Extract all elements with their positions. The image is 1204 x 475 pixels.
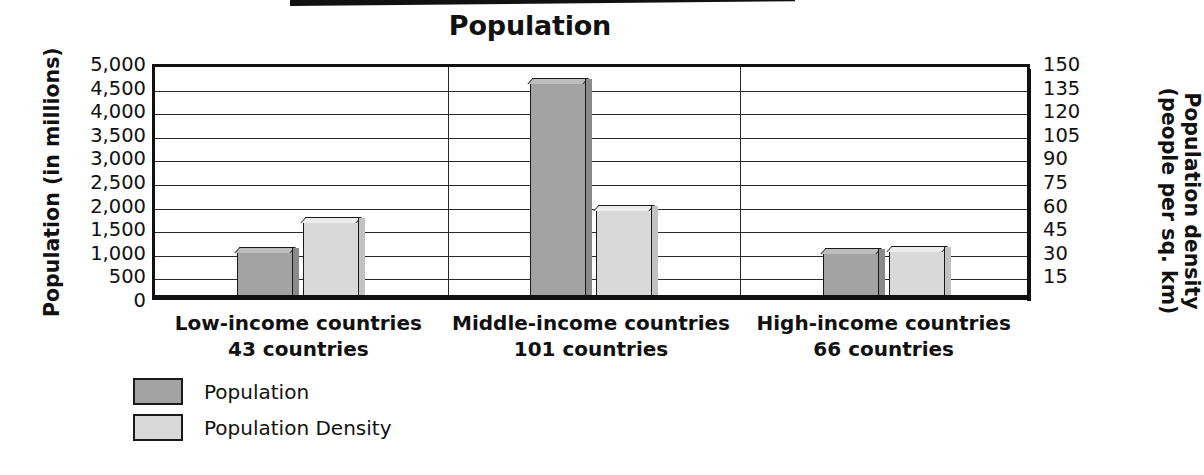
y-axis-right-tick-label: 105 bbox=[1043, 126, 1080, 146]
bar-top-face bbox=[527, 78, 588, 84]
bar-top-face bbox=[301, 217, 362, 223]
category-divider bbox=[448, 67, 449, 297]
category-label: Low-income countries43 countries bbox=[152, 310, 445, 362]
category-label: Middle-income countries101 countries bbox=[445, 310, 738, 362]
category-country-count: 66 countries bbox=[737, 336, 1030, 362]
y-axis-left-tick-label: 2,500 bbox=[90, 173, 146, 193]
y-axis-left-tick-label: 500 bbox=[109, 267, 146, 287]
chart-title: Population bbox=[0, 10, 1060, 41]
y-axis-left-title: Population (in millions) bbox=[40, 57, 64, 317]
x-axis-baseline bbox=[152, 295, 1030, 300]
y-axis-left-tick-label: 5,000 bbox=[90, 55, 146, 75]
bar-side-face bbox=[944, 247, 951, 296]
legend-swatch bbox=[133, 414, 183, 441]
category-name: High-income countries bbox=[756, 311, 1010, 335]
bar-top-face bbox=[593, 205, 654, 211]
title-rule-decoration bbox=[290, 0, 795, 6]
y-axis-right-tick-label: 120 bbox=[1043, 102, 1080, 122]
bar-top-face bbox=[235, 247, 296, 253]
bar-side-face bbox=[651, 206, 658, 296]
legend-swatch bbox=[133, 378, 183, 405]
y-axis-left-tick-label: 4,500 bbox=[90, 79, 146, 99]
bar-side-face bbox=[358, 218, 365, 296]
category-name: Middle-income countries bbox=[452, 311, 730, 335]
bar bbox=[303, 221, 365, 297]
y-axis-left-tick-label: 1,500 bbox=[90, 220, 146, 240]
y-axis-left-tick-label: 1,000 bbox=[90, 244, 146, 264]
legend-item: Population bbox=[133, 378, 391, 405]
bar bbox=[823, 252, 885, 297]
y-axis-left-tick-label: 0 bbox=[134, 291, 146, 311]
bar bbox=[530, 82, 592, 297]
y-axis-right-title: Population density (people per sq. km) bbox=[1157, 76, 1203, 326]
category-divider bbox=[740, 67, 741, 297]
y-axis-right-tick-label: 90 bbox=[1043, 149, 1068, 169]
bar bbox=[889, 250, 951, 297]
legend-label: Population bbox=[204, 380, 309, 404]
bar bbox=[237, 251, 299, 297]
y-axis-right-tick-label: 30 bbox=[1043, 244, 1068, 264]
legend-label: Population Density bbox=[204, 416, 391, 440]
bar-top-face bbox=[886, 246, 947, 252]
y-axis-right-tick-label: 60 bbox=[1043, 197, 1068, 217]
category-country-count: 43 countries bbox=[152, 336, 445, 362]
y-axis-right-tick-label: 150 bbox=[1043, 55, 1080, 75]
y-axis-right-tick-label: 75 bbox=[1043, 173, 1068, 193]
plot-area bbox=[152, 64, 1030, 300]
bar-side-face bbox=[585, 79, 592, 296]
y-axis-right-tick-label: 135 bbox=[1043, 79, 1080, 99]
y-axis-right-tick-label: 15 bbox=[1043, 267, 1068, 287]
y-axis-left-tick-label: 4,000 bbox=[90, 102, 146, 122]
category-name: Low-income countries bbox=[175, 311, 422, 335]
y-axis-left-tick-label: 2,000 bbox=[90, 197, 146, 217]
y-axis-right-title-line1: Population density bbox=[1180, 76, 1203, 326]
y-axis-right-title-line2: (people per sq. km) bbox=[1157, 76, 1180, 326]
bar-side-face bbox=[292, 248, 299, 296]
y-axis-left-tick-label: 3,500 bbox=[90, 126, 146, 146]
bar-top-face bbox=[820, 248, 881, 254]
category-country-count: 101 countries bbox=[445, 336, 738, 362]
bar bbox=[596, 209, 658, 297]
y-axis-left-tick-label: 3,000 bbox=[90, 149, 146, 169]
bar-side-face bbox=[878, 249, 885, 296]
y-axis-right-tick-label: 45 bbox=[1043, 220, 1068, 240]
legend-item: Population Density bbox=[133, 414, 391, 441]
category-label: High-income countries66 countries bbox=[737, 310, 1030, 362]
legend: PopulationPopulation Density bbox=[133, 378, 391, 450]
